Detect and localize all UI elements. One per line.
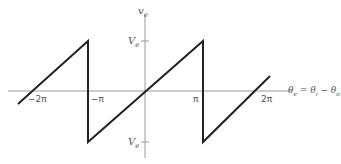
y-tick-bottom-sub: e — [135, 142, 139, 150]
sawtooth-diagram — [0, 0, 341, 164]
y-tick-top-sub: e — [135, 41, 139, 49]
x-tick-2pi: 2π — [261, 95, 272, 104]
y-axis-label-sub: e — [144, 11, 148, 19]
x-tick-pi: π — [193, 95, 198, 104]
x-label-sub-o: o — [336, 90, 340, 97]
y-tick-label-bottom: Ve — [128, 137, 139, 150]
x-label-minus: − — [318, 85, 331, 95]
x-tick-neg-pi: −π — [91, 95, 104, 104]
x-tick-neg-2pi: −2π — [28, 95, 47, 104]
x-label-equals: = — [297, 85, 310, 95]
y-tick-label-top: Ve — [128, 36, 139, 49]
x-axis-label: θe = θi − θo — [288, 86, 340, 97]
y-axis-label: ve — [138, 6, 148, 19]
